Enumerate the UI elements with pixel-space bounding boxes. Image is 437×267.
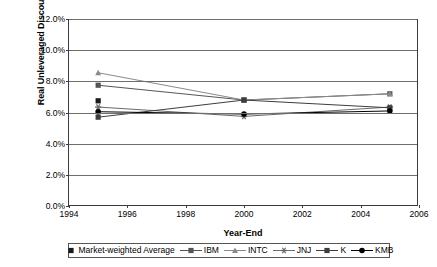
x-tick-mark (419, 205, 420, 208)
x-tick-label: 2000 (235, 209, 254, 219)
legend-label: KMB (375, 246, 393, 255)
y-gridline (69, 175, 417, 176)
data-point-marker (281, 248, 287, 254)
data-point-marker (96, 98, 101, 103)
y-tick-label: 8.0% (46, 76, 65, 86)
y-tick-label: 12.0% (41, 14, 65, 24)
data-point-marker (359, 248, 365, 254)
series-line (98, 73, 390, 100)
legend-item[interactable]: K (316, 246, 346, 255)
legend-marker-icon (65, 246, 77, 255)
legend-marker-icon (224, 246, 246, 255)
legend-marker-icon (273, 246, 295, 255)
x-tick-mark (361, 205, 362, 208)
x-tick-label: 2004 (351, 209, 370, 219)
legend-item[interactable]: IBM (180, 246, 219, 255)
chart-legend: Market-weighted AverageIBMINTCJNJKKMB (68, 243, 390, 258)
x-tick-label: 1996 (118, 209, 137, 219)
legend-label: JNJ (297, 246, 312, 255)
x-tick-label: 2006 (410, 209, 429, 219)
legend-label: Market-weighted Average (79, 246, 175, 255)
legend-marker-icon (316, 246, 338, 255)
y-tick-mark (66, 175, 69, 176)
y-axis-title-wrap: Real Unleveraged Discount Rates (4, 10, 20, 206)
y-tick-label: 10.0% (41, 45, 65, 55)
y-tick-mark (66, 19, 69, 20)
data-point-marker (68, 248, 73, 253)
data-point-marker (188, 248, 193, 253)
legend-label: INTC (248, 246, 268, 255)
data-point-marker (325, 248, 330, 253)
y-tick-mark (66, 144, 69, 145)
data-point-marker (96, 83, 101, 88)
x-tick-label: 2002 (293, 209, 312, 219)
y-gridline (69, 113, 417, 114)
y-gridline (69, 81, 417, 82)
y-gridline (69, 19, 417, 20)
x-tick-mark (69, 205, 70, 208)
data-point-marker (241, 97, 246, 102)
legend-label: K (340, 246, 346, 255)
data-point-marker (96, 115, 101, 120)
y-tick-mark (66, 81, 69, 82)
y-tick-label: 6.0% (46, 108, 65, 118)
data-point-marker (95, 70, 101, 75)
x-axis-title: Year-End (68, 228, 418, 238)
legend-item[interactable]: Market-weighted Average (65, 246, 175, 255)
legend-item[interactable]: JNJ (273, 246, 312, 255)
y-gridline (69, 144, 417, 145)
legend-item[interactable]: KMB (351, 246, 393, 255)
y-tick-label: 2.0% (46, 170, 65, 180)
y-tick-mark (66, 50, 69, 51)
x-tick-label: 1998 (176, 209, 195, 219)
x-tick-mark (186, 205, 187, 208)
x-tick-mark (244, 205, 245, 208)
y-tick-label: 4.0% (46, 139, 65, 149)
legend-marker-icon (351, 246, 373, 255)
legend-item[interactable]: INTC (224, 246, 268, 255)
x-tick-label: 1994 (60, 209, 79, 219)
chart-container: Real Unleveraged Discount Rates 0.0%2.0%… (0, 0, 437, 267)
x-tick-mark (302, 205, 303, 208)
legend-label: IBM (204, 246, 219, 255)
y-tick-mark (66, 113, 69, 114)
legend-marker-icon (180, 246, 202, 255)
plot-area: 0.0%2.0%4.0%6.0%8.0%10.0%12.0%1994199619… (68, 19, 418, 206)
y-gridline (69, 50, 417, 51)
x-tick-mark (127, 205, 128, 208)
